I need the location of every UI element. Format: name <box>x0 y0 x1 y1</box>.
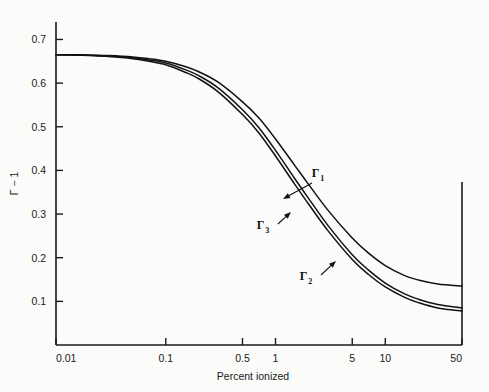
annotation-gamma-2: Γ2 <box>300 261 336 286</box>
axis-titles: Percent ionizedΓ − 1 <box>8 172 289 382</box>
y-tick-label: 0.5 <box>31 121 46 133</box>
curve-2 <box>56 55 462 311</box>
x-tick-label: 10 <box>379 352 391 364</box>
y-tick-label: 0.4 <box>31 164 46 176</box>
arrow-head-icon <box>283 193 290 199</box>
ticks-group: 0.10.20.30.40.50.60.70.010.10.5151050 <box>31 33 462 364</box>
y-axis-title: Γ − 1 <box>8 172 20 196</box>
y-tick-label: 0.7 <box>31 33 46 45</box>
x-tick-label: 0.1 <box>158 352 173 364</box>
x-tick-label: 50 <box>450 352 462 364</box>
curve-3 <box>56 55 462 308</box>
x-axis-title: Percent ionized <box>217 370 290 382</box>
y-tick-label: 0.3 <box>31 208 46 220</box>
annotation-gamma-3: Γ3 <box>257 212 291 235</box>
x-tick-label: 0.01 <box>56 352 77 364</box>
y-tick-label: 0.1 <box>31 295 46 307</box>
chart-plot: 0.10.20.30.40.50.60.70.010.10.5151050 Γ1… <box>0 0 489 392</box>
curve-label-gamma-3: Γ3 <box>257 218 270 235</box>
curve-label-gamma-1: Γ1 <box>312 166 325 183</box>
y-tick-label: 0.6 <box>31 77 46 89</box>
curves-group <box>56 55 462 311</box>
x-tick-label: 1 <box>273 352 279 364</box>
curve-1 <box>56 55 462 286</box>
y-tick-label: 0.2 <box>31 252 46 264</box>
x-tick-label: 0.5 <box>235 352 250 364</box>
leader-line <box>321 264 332 275</box>
curve-label-gamma-2: Γ2 <box>300 269 313 286</box>
figure-container: 0.10.20.30.40.50.60.70.010.10.5151050 Γ1… <box>0 0 489 392</box>
x-tick-label: 5 <box>349 352 355 364</box>
